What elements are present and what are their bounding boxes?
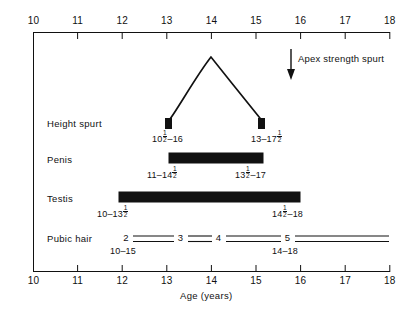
top-tick-label-17: 17 (330, 15, 360, 26)
bottom-tick-label-13: 13 (152, 275, 182, 286)
bottom-tick-label-11: 11 (63, 275, 93, 286)
top-tick-label-14: 14 (196, 15, 226, 26)
penis-left-range: 11–1412 (147, 166, 177, 180)
puberty-sequence-chart: 10 11 12 13 14 15 16 17 18 10 11 12 13 1… (0, 0, 410, 312)
bottom-tick-label-12: 12 (107, 275, 137, 286)
top-tick-label-11: 11 (63, 15, 93, 26)
range-fraction: 12 (277, 130, 282, 143)
testis-left-range: 10–1312 (97, 205, 128, 219)
pubic-hair-stage-4: 4 (212, 232, 226, 243)
x-axis-title: Age (years) (180, 290, 232, 301)
height-spurt-right-range: 13–1712 (251, 130, 282, 144)
range-head: 11–14 (147, 170, 172, 180)
top-tick-label-13: 13 (152, 15, 182, 26)
bottom-tick-label-17: 17 (330, 275, 360, 286)
pubic-hair-stage-3: 3 (174, 232, 188, 243)
row-label-testis: Testis (47, 193, 73, 204)
penis-bar (169, 153, 264, 164)
top-tick-label-15: 15 (241, 15, 271, 26)
pubic-hair-right-range: 14–18 (272, 246, 298, 256)
apex-strength-spurt-label: Apex strength spurt (298, 53, 384, 64)
bottom-tick-label-18: 18 (375, 275, 405, 286)
top-tick-label-12: 12 (107, 15, 137, 26)
bottom-tick-label-10: 10 (19, 275, 49, 286)
top-tick-label-18: 18 (375, 15, 405, 26)
range-tail: –17 (250, 170, 266, 180)
testis-right-range: 1412–18 (272, 205, 303, 219)
height-spurt-left-range: 1012–16 (152, 130, 183, 144)
range-tail: –16 (167, 134, 183, 144)
axis-bottom-ticks (34, 265, 390, 272)
top-tick-label-16: 16 (286, 15, 316, 26)
range-fraction: 12 (172, 166, 177, 179)
height-spurt-end-marker (258, 118, 265, 129)
axis-top-ticks (34, 32, 390, 39)
range-head: 10–13 (97, 209, 123, 219)
row-label-pubic-hair: Pubic hair (47, 233, 92, 244)
apex-strength-spurt-arrow (287, 49, 295, 80)
height-spurt-curve (169, 57, 262, 121)
bottom-tick-label-16: 16 (286, 275, 316, 286)
pubic-hair-stage-2: 2 (119, 232, 133, 243)
range-whole: 14 (272, 209, 282, 219)
pubic-hair-left-range: 10–15 (110, 246, 136, 256)
row-label-height-spurt: Height spurt (47, 118, 102, 129)
bottom-tick-label-14: 14 (196, 275, 226, 286)
testis-bar (119, 192, 301, 203)
range-head: 13–17 (251, 134, 277, 144)
range-tail: –18 (287, 209, 303, 219)
range-whole: 13 (235, 170, 245, 180)
row-label-penis: Penis (47, 154, 72, 165)
pubic-hair-track (131, 236, 389, 242)
top-tick-label-10: 10 (19, 15, 49, 26)
range-whole: 10 (152, 134, 162, 144)
height-spurt-start-marker (165, 118, 172, 129)
pubic-hair-stage-5: 5 (281, 232, 295, 243)
range-fraction: 12 (123, 205, 128, 218)
penis-right-range: 1312–17 (235, 166, 266, 180)
bottom-tick-label-15: 15 (241, 275, 271, 286)
